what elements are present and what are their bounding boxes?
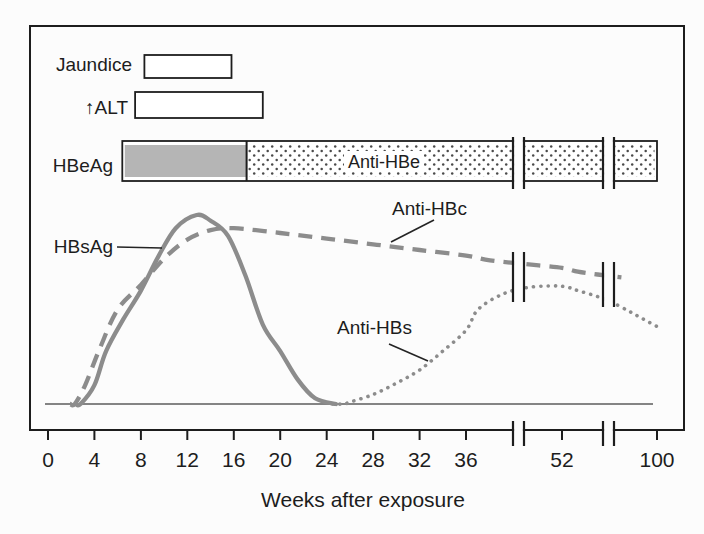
x-tick-label-32: 32	[408, 448, 431, 471]
hbsag-curve-label: HBsAg	[54, 236, 113, 257]
axis-break-marks	[513, 137, 614, 446]
serology-chart: HBsAg Anti-HBc Anti-HBs Anti-HBe Jaundic…	[0, 0, 704, 534]
jaundice-period-bar	[144, 55, 231, 78]
plot-frame	[30, 26, 684, 430]
x-tick-label-8: 8	[135, 448, 147, 471]
x-tick-label-0: 0	[42, 448, 54, 471]
anti-hbe-bar-label: Anti-HBe	[348, 152, 420, 172]
x-tick-label-12: 12	[176, 448, 199, 471]
alt-row-label: ↑ALT	[85, 97, 128, 118]
break-gap-bar	[514, 137, 523, 189]
hbeag-row-label: HBeAg	[53, 155, 113, 176]
break-gap-curve	[604, 262, 613, 307]
break-gap-axis	[604, 421, 613, 446]
x-tick-label-4: 4	[89, 448, 101, 471]
anti-hbe-positive-segment	[247, 145, 655, 177]
anti-hbs-curve-label: Anti-HBs	[337, 317, 412, 338]
x-axis-title: Weeks after exposure	[261, 488, 465, 511]
curve-hbsag	[76, 215, 336, 406]
x-tick-label-52: 52	[550, 448, 573, 471]
x-tick-label-100: 100	[639, 448, 674, 471]
x-tick-label-28: 28	[361, 448, 384, 471]
x-tick-label-36: 36	[454, 448, 477, 471]
anti-hbc-curve-label: Anti-HBc	[392, 198, 467, 219]
hepatitis-b-serologic-course-figure: HBsAg Anti-HBc Anti-HBs Anti-HBe Jaundic…	[0, 0, 704, 534]
x-tick-label-20: 20	[269, 448, 292, 471]
x-tick-label-24: 24	[315, 448, 339, 471]
break-gap-curve	[514, 252, 523, 302]
break-gap-axis	[514, 421, 523, 446]
anti-hbs-leader-line	[389, 344, 428, 361]
jaundice-row-label: Jaundice	[56, 54, 132, 75]
anti-hbc-leader-line	[391, 220, 434, 242]
up-arrow-icon: ↑	[85, 97, 95, 118]
x-axis: 0481216202428323652100	[42, 430, 674, 471]
x-tick-label-16: 16	[222, 448, 245, 471]
hbsag-leader-line	[117, 247, 162, 248]
alt-period-bar	[135, 92, 263, 118]
break-gap-bar	[604, 137, 613, 189]
serology-curves	[70, 215, 657, 406]
alt-row-label-text: ALT	[95, 97, 129, 118]
hbeag-positive-segment	[125, 145, 247, 177]
